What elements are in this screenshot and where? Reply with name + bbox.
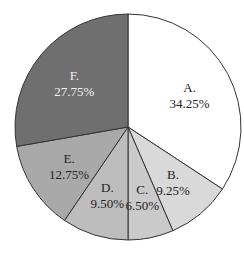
slice-percent-label: 27.75% — [54, 84, 94, 99]
slice-percent-label: 6.50% — [125, 198, 159, 213]
slice-percent-label: 9.50% — [91, 196, 125, 211]
slice-category-label: A. — [183, 80, 196, 95]
slice-category-label: C. — [136, 182, 148, 197]
slice-category-label: B. — [167, 167, 179, 182]
pie-chart: A.34.25%B.9.25%C.6.50%D.9.50%E.12.75%F.2… — [0, 0, 244, 256]
slice-category-label: D. — [101, 180, 114, 195]
slice-percent-label: 12.75% — [49, 167, 89, 182]
slice-category-label: F. — [70, 68, 79, 83]
slice-percent-label: 34.25% — [170, 96, 210, 111]
slice-percent-label: 9.25% — [156, 183, 190, 198]
slice-category-label: E. — [64, 151, 75, 166]
